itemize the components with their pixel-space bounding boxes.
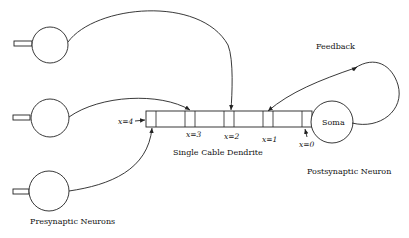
neuron-body-middle	[31, 99, 69, 137]
presynaptic-neuron-middle	[13, 99, 69, 137]
label-soma: Soma	[322, 118, 345, 127]
presynaptic-neuron-bottom	[13, 171, 69, 211]
label-x3: x=3	[186, 130, 202, 139]
input-terminal-middle	[13, 115, 30, 120]
neuron-body-top	[32, 27, 68, 63]
x0-pointer-arrow	[305, 129, 307, 137]
label-x4: x=4	[118, 117, 134, 126]
label-dendrite: Single Cable Dendrite	[173, 148, 263, 157]
label-feedback: Feedback	[316, 42, 355, 51]
neuron-diagram: x=4 x=3 x=2 x=1 x=0 Single Cable Dendrit…	[0, 0, 409, 238]
axon-top-to-x2	[68, 11, 232, 110]
neuron-body-bottom	[29, 171, 69, 211]
label-postsynaptic: Postsynaptic Neuron	[307, 167, 391, 176]
axon-bottom-to-x4	[69, 128, 152, 191]
presynaptic-neuron-top	[14, 27, 68, 63]
input-terminal-top	[14, 41, 32, 46]
label-x1: x=1	[262, 135, 277, 144]
label-presynaptic: Presynaptic Neurons	[30, 217, 115, 226]
x4-pointer-arrow	[135, 120, 145, 121]
label-x2: x=2	[224, 132, 240, 141]
dendrite-cable	[146, 111, 312, 127]
label-x0: x=0	[299, 140, 315, 149]
input-terminal-bottom	[13, 189, 29, 194]
